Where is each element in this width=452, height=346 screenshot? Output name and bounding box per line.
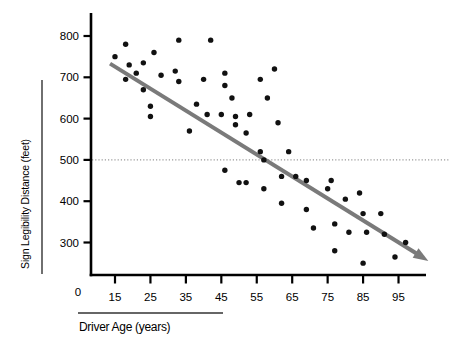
data-point <box>222 70 227 75</box>
x-tick-label: 35 <box>179 291 192 303</box>
data-point <box>141 60 146 65</box>
data-point <box>343 196 348 201</box>
data-point <box>187 128 192 133</box>
data-point <box>229 95 234 100</box>
data-point <box>243 180 248 185</box>
data-point <box>265 95 270 100</box>
data-point <box>123 42 128 47</box>
x-tick-label: 75 <box>321 291 334 303</box>
data-point <box>134 70 139 75</box>
y-tick-label: 500 <box>60 154 79 166</box>
data-point <box>258 149 263 154</box>
data-point <box>275 120 280 125</box>
y-tick-label: 700 <box>60 71 79 83</box>
data-point <box>141 87 146 92</box>
scatter-plot-figure: 3004005006007008001525354555657585950Sig… <box>0 0 452 346</box>
data-point <box>261 157 266 162</box>
data-point <box>148 114 153 119</box>
data-point <box>243 130 248 135</box>
data-point <box>222 83 227 88</box>
data-point <box>346 229 351 234</box>
data-point <box>123 77 128 82</box>
y-tick-label: 300 <box>60 237 79 249</box>
data-point <box>304 207 309 212</box>
data-point <box>233 122 238 127</box>
data-point <box>176 79 181 84</box>
data-point <box>325 186 330 191</box>
data-point <box>357 190 362 195</box>
x-tick-label: 85 <box>357 291 370 303</box>
y-axis-title: Sign Legibility Distance (feet) <box>19 139 31 269</box>
data-point <box>219 112 224 117</box>
data-point <box>261 186 266 191</box>
y-tick-label: 800 <box>60 30 79 42</box>
data-point <box>279 174 284 179</box>
data-point <box>173 68 178 73</box>
data-point <box>247 112 252 117</box>
data-point <box>272 66 277 71</box>
data-point <box>201 77 206 82</box>
data-point <box>194 101 199 106</box>
trend-arrowhead-icon <box>413 248 429 261</box>
data-point <box>258 77 263 82</box>
data-point <box>328 178 333 183</box>
data-point <box>293 174 298 179</box>
data-point <box>332 221 337 226</box>
x-tick-label: 25 <box>144 291 157 303</box>
data-point <box>403 240 408 245</box>
x-tick-label: 45 <box>215 291 228 303</box>
data-point <box>222 168 227 173</box>
data-point <box>279 201 284 206</box>
x-tick-label: 65 <box>286 291 299 303</box>
scatter-plot-svg: 3004005006007008001525354555657585950Sig… <box>0 0 452 346</box>
data-point <box>158 73 163 78</box>
data-point <box>332 248 337 253</box>
x-tick-label: 55 <box>250 291 263 303</box>
y-tick-label: 600 <box>60 113 79 125</box>
x-tick-label: 95 <box>392 291 405 303</box>
data-point <box>378 211 383 216</box>
x-axis-title: Driver Age (years) <box>79 320 171 334</box>
x-tick-label: 15 <box>109 291 122 303</box>
data-point <box>126 62 131 67</box>
data-point <box>208 37 213 42</box>
data-point <box>382 232 387 237</box>
data-point <box>112 54 117 59</box>
data-point <box>304 178 309 183</box>
data-point <box>151 50 156 55</box>
data-point <box>360 260 365 265</box>
data-point <box>204 112 209 117</box>
data-point <box>360 211 365 216</box>
data-point <box>176 37 181 42</box>
data-point <box>392 254 397 259</box>
data-point <box>236 180 241 185</box>
data-point <box>286 149 291 154</box>
data-point <box>148 104 153 109</box>
origin-label: 0 <box>75 286 81 298</box>
data-point <box>364 229 369 234</box>
y-tick-label: 400 <box>60 195 79 207</box>
data-point <box>233 114 238 119</box>
data-point <box>311 225 316 230</box>
